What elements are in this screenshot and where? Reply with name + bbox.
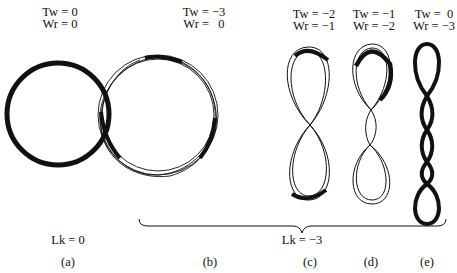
panel-c-tag: (c)	[298, 256, 322, 268]
panel-d-wr: Wr = −2	[344, 20, 404, 32]
panel-a-tag: (a)	[56, 256, 80, 268]
panel-d-tag: (d)	[359, 256, 383, 268]
supercoil-3-crossings	[415, 44, 439, 224]
panel-b-tag: (b)	[198, 256, 222, 268]
twisted-circle	[98, 55, 218, 177]
panel-e-wr: Wr = −3	[404, 20, 457, 32]
relaxed-circle	[7, 63, 109, 165]
figure-eight-2-crossings	[353, 44, 391, 204]
linking-number-a: Lk = 0	[40, 234, 96, 246]
panel-a-wr: Wr = 0	[32, 18, 88, 30]
panel-b-wr: Wr = 0	[174, 18, 234, 30]
linking-number-b-e: Lk = −3	[272, 234, 332, 246]
panel-e-tag: (e)	[415, 256, 439, 268]
panel-c-wr: Wr = −1	[284, 20, 344, 32]
figure-eight-1-crossing	[287, 47, 329, 200]
linking-brace	[139, 219, 446, 233]
